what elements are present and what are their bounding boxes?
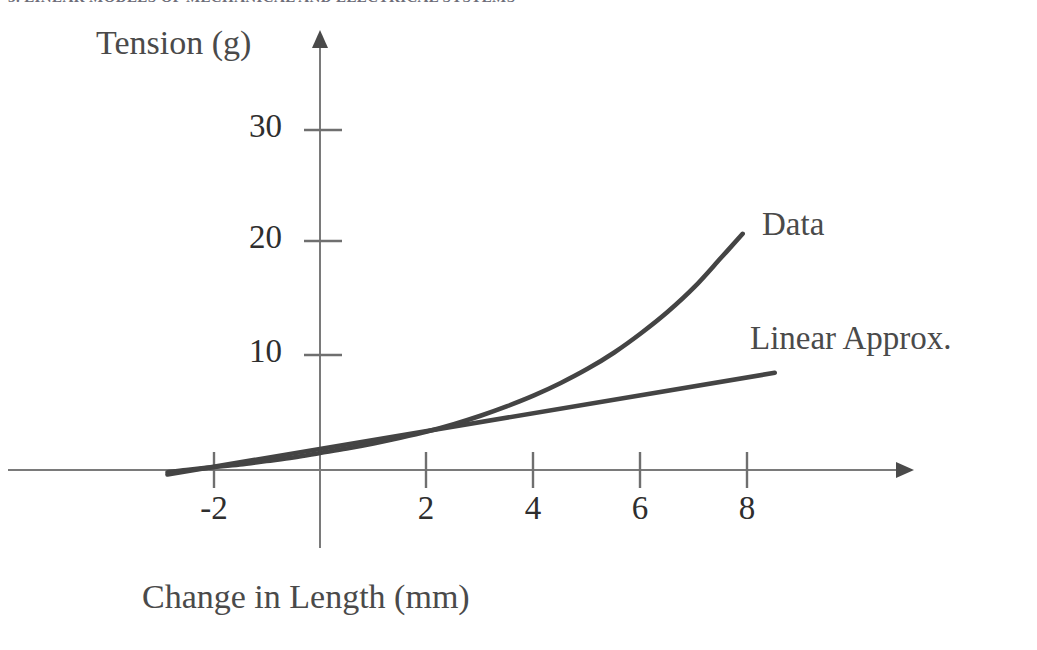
series-label-linear-approx: Linear Approx. bbox=[750, 320, 952, 357]
series-curve-linear-approx bbox=[168, 373, 775, 475]
x-tick-label--2: -2 bbox=[184, 490, 244, 527]
x-tick-label-4: 4 bbox=[503, 490, 563, 527]
x-tick-label-6: 6 bbox=[610, 490, 670, 527]
x-tick-label-8: 8 bbox=[717, 490, 777, 527]
series-label-data: Data bbox=[762, 206, 824, 243]
y-tick-label-30: 30 bbox=[212, 108, 282, 145]
y-axis-title: Tension (g) bbox=[96, 24, 251, 62]
x-tick-label-2: 2 bbox=[396, 490, 456, 527]
y-tick-label-20: 20 bbox=[212, 219, 282, 256]
x-axis-title: Change in Length (mm) bbox=[142, 578, 470, 616]
y-tick-label-10: 10 bbox=[212, 333, 282, 370]
chart-page: 3. LINEAR MODELS OF MECHANICAL AND ELECT… bbox=[0, 0, 1037, 650]
y-tick-marks bbox=[304, 130, 342, 355]
